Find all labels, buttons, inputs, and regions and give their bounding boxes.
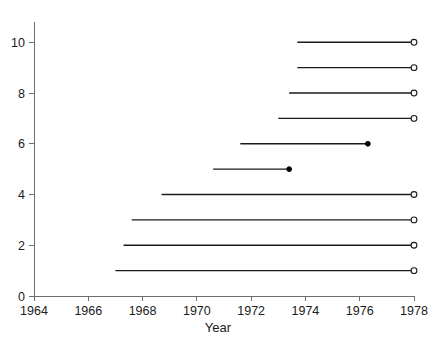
data-series-layer [115,39,416,273]
chart-container: 19641966196819701972197419761978 0246810… [0,0,436,338]
x-tick-label: 1966 [74,304,102,318]
y-axis-ticks: 0246810 [11,36,34,304]
x-axis-title: Year [205,320,232,335]
x-tick-label: 1970 [183,304,211,318]
censored-marker [411,116,417,122]
y-tick-label: 6 [18,137,25,151]
censored-marker [411,39,417,45]
censored-marker [411,192,417,198]
plot-axes [34,22,414,296]
censored-marker [411,65,417,71]
x-tick-label: 1978 [400,304,428,318]
x-tick-label: 1976 [346,304,374,318]
x-tick-label: 1974 [292,304,320,318]
y-tick-label: 0 [18,290,25,304]
x-axis-ticks: 19641966196819701972197419761978 [20,296,428,318]
event-marker [287,167,292,172]
y-tick-label: 4 [18,188,25,202]
censored-marker [411,268,417,274]
event-marker [365,141,370,146]
survival-followup-chart: 19641966196819701972197419761978 0246810… [0,0,436,338]
x-tick-label: 1968 [129,304,157,318]
x-tick-label: 1964 [20,304,48,318]
y-tick-label: 2 [18,239,25,253]
censored-marker [411,90,417,96]
y-tick-label: 8 [18,87,25,101]
censored-marker [411,217,417,223]
x-tick-label: 1972 [237,304,265,318]
y-tick-label: 10 [11,36,25,50]
censored-marker [411,242,417,248]
